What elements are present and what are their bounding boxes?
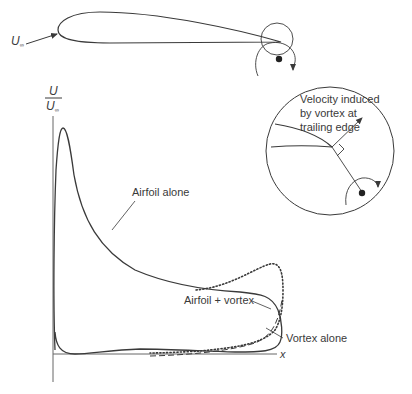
freestream-label: U∞	[11, 35, 24, 51]
leader-airfoil-alone	[112, 201, 135, 230]
inset-caption-line-2: by vortex at	[300, 106, 380, 120]
freestream-label-text: U	[11, 34, 20, 48]
y-axis-label-numerator: U	[49, 85, 58, 97]
inset-caption: Velocity induced by vortex at trailing e…	[300, 92, 380, 134]
freestream-arrow	[26, 34, 57, 44]
diagram-canvas	[0, 0, 412, 394]
curve-vortex-alone	[150, 300, 282, 356]
inset-caption-line-1: Velocity induced	[300, 92, 380, 106]
airfoil-shape	[58, 12, 281, 43]
label-vortex-alone: Vortex alone	[286, 332, 347, 344]
leader-airfoil-plus-vortex	[252, 301, 271, 309]
y-axis-label-denominator: U∞	[46, 100, 59, 116]
curve-airfoil-alone	[54, 128, 282, 354]
label-airfoil-plus-vortex: Airfoil + vortex	[184, 294, 254, 306]
inset-caption-line-3: trailing edge	[300, 120, 380, 134]
trailing-edge-vortex	[256, 23, 296, 76]
freestream-subscript: ∞	[20, 42, 24, 48]
curve-airfoil-plus-vortex	[150, 264, 283, 353]
y-axis-denominator-subscript: ∞	[55, 107, 59, 113]
x-axis-label: x	[280, 348, 286, 360]
y-axis-denominator-text: U	[46, 99, 55, 113]
label-airfoil-alone: Airfoil alone	[132, 186, 189, 198]
